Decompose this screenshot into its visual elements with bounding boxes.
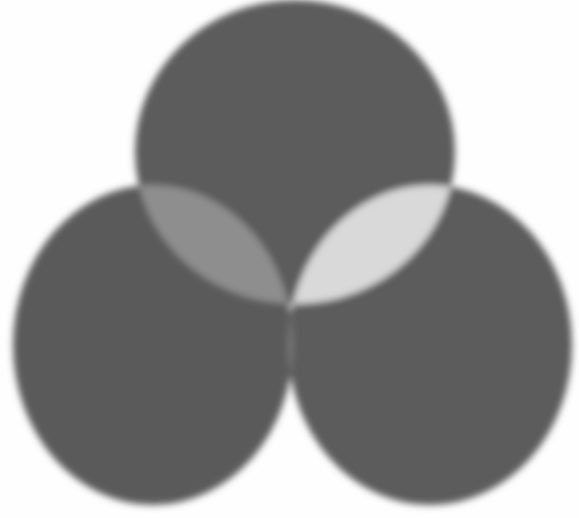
venn-diagram	[0, 0, 579, 518]
